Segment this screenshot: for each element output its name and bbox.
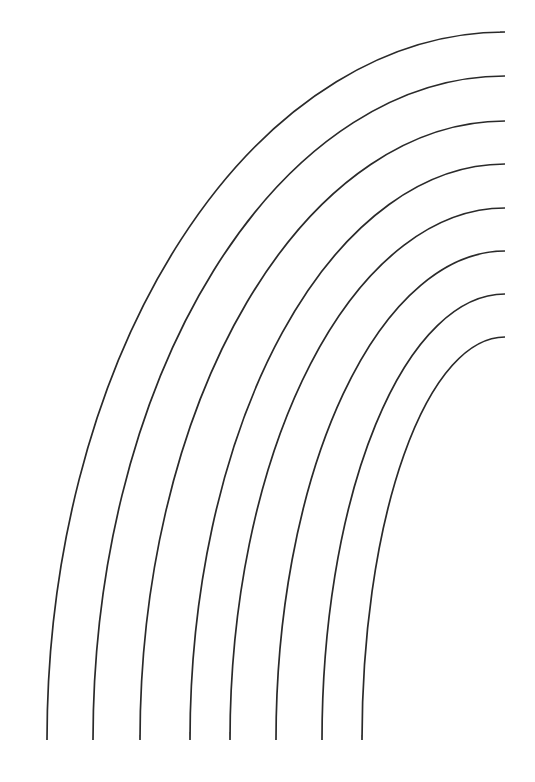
- arc-4: [190, 164, 505, 740]
- arc-5: [230, 208, 505, 740]
- arc-8: [362, 337, 505, 740]
- arc-group: [47, 32, 505, 740]
- arc-7: [322, 294, 505, 740]
- concentric-arcs-diagram: [0, 0, 535, 782]
